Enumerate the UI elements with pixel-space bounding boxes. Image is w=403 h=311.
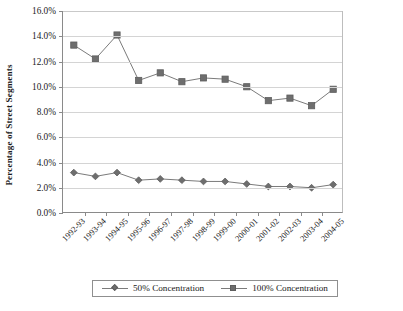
diamond-marker-icon [102,284,128,293]
y-axis-tick-label: 4.0% [37,158,56,168]
square-marker [157,70,163,76]
diamond-marker [222,178,229,185]
x-axis-tick-label: 1997-98 [168,216,195,243]
diamond-marker [200,178,207,185]
y-axis-tick-label: 16.0% [32,6,56,16]
y-axis-tick-label: 6.0% [37,132,56,142]
square-marker [222,76,228,82]
y-axis-tick-mark [59,112,63,113]
diamond-marker [265,183,272,190]
x-axis-tick-label: 1994-95 [103,216,130,243]
square-marker [200,75,206,81]
y-axis-title-label: Percentage of Street Segments [4,64,14,185]
diamond-marker [70,169,77,176]
y-axis-tick-mark [59,163,63,164]
diamond-marker [178,177,185,184]
chart-container: Percentage of Street Segments 0.0%2.0%4.… [0,0,403,311]
diamond-marker [157,176,164,183]
diamond-marker [92,173,99,180]
x-axis-tick-labels: 1992-931993-941994-951995-961996-971997-… [62,213,343,271]
y-axis-tick-label: 0.0% [37,208,56,218]
diamond-marker [135,177,142,184]
gridline [63,112,342,113]
diamond-marker [114,169,121,176]
gridline [63,163,342,164]
square-marker [136,77,142,83]
y-axis-tick-label: 10.0% [32,82,56,92]
x-axis-tick-label: 2003-04 [297,216,324,243]
square-marker [71,42,77,48]
square-marker [308,103,314,109]
plot-area [62,11,343,213]
diamond-marker [287,183,294,190]
legend-item-50-concentration[interactable]: 50% Concentration [102,283,204,293]
gridline [63,36,342,37]
gridline [63,62,342,63]
x-axis-tick-label: 1995-96 [124,216,151,243]
y-axis-tick-label: 12.0% [32,57,56,67]
series-line [74,35,333,106]
y-axis-tick-mark [59,36,63,37]
y-axis-tick-label: 2.0% [37,183,56,193]
diamond-marker [243,181,250,188]
gridline [63,11,342,12]
chart-legend: 50% Concentration 100% Concentration [92,280,338,297]
y-axis-title: Percentage of Street Segments [0,0,18,250]
legend-item-label: 100% Concentration [250,283,328,293]
square-marker [265,98,271,104]
y-axis-tick-mark [59,62,63,63]
y-axis-tick-mark [59,87,63,88]
square-marker [287,95,293,101]
y-axis-tick-mark [59,11,63,12]
y-axis-tick-labels: 0.0%2.0%4.0%6.0%8.0%10.0%12.0%14.0%16.0% [18,11,60,213]
x-axis-tick-label: 1998-99 [189,216,216,243]
gridline [63,87,342,88]
gridline [63,188,342,189]
x-axis-tick-label: 2001-02 [254,216,281,243]
y-axis-tick-mark [59,137,63,138]
y-axis-tick-label: 8.0% [37,107,56,117]
x-axis-tick-label: 1993-94 [81,216,108,243]
gridline [63,137,342,138]
square-marker-icon [221,284,247,293]
square-marker [179,79,185,85]
y-axis-tick-label: 14.0% [32,31,56,41]
x-axis-tick-label: 2000-01 [232,216,259,243]
x-axis-tick-label: 2002-03 [276,216,303,243]
y-axis-tick-mark [59,188,63,189]
legend-item-label: 50% Concentration [131,283,204,293]
legend-item-100-concentration[interactable]: 100% Concentration [221,283,328,293]
